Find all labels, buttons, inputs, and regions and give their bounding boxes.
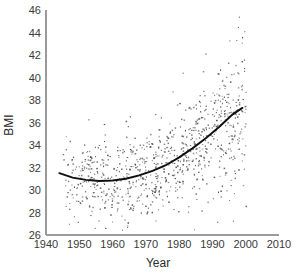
data-point (89, 205, 90, 207)
data-point (98, 196, 99, 198)
data-point (183, 183, 184, 184)
data-point (213, 198, 214, 200)
data-point (153, 195, 154, 197)
data-point (238, 169, 240, 171)
data-point (113, 189, 114, 190)
data-point (105, 164, 107, 165)
data-point (133, 184, 134, 185)
data-point (244, 106, 246, 108)
data-point (140, 158, 141, 160)
data-point (177, 197, 179, 199)
data-point (187, 149, 188, 151)
data-point (80, 183, 82, 185)
data-point (188, 212, 189, 214)
data-point (241, 86, 243, 87)
trend-line (59, 108, 242, 181)
data-point (146, 157, 148, 158)
data-point (199, 133, 201, 134)
data-point (202, 117, 204, 118)
data-point (200, 164, 201, 166)
data-point (138, 197, 140, 198)
data-point (131, 187, 133, 188)
data-point (121, 216, 122, 217)
y-tick-label: 28 (29, 207, 41, 219)
data-point (137, 161, 139, 162)
data-point (233, 221, 234, 222)
data-point (199, 118, 200, 120)
data-point (79, 166, 81, 167)
data-point (139, 169, 141, 171)
data-point (237, 139, 238, 140)
data-point (109, 156, 111, 157)
data-point (94, 196, 96, 197)
data-point (165, 152, 166, 153)
data-point (152, 201, 154, 202)
data-point (186, 160, 187, 161)
data-point (235, 173, 236, 174)
data-point (233, 126, 235, 128)
data-point (241, 129, 242, 130)
data-point (190, 128, 191, 129)
data-point (235, 117, 236, 119)
data-point (218, 100, 219, 101)
data-point (227, 114, 228, 115)
data-point (126, 160, 127, 161)
x-tick-label: 2000 (233, 238, 257, 250)
data-point (239, 102, 240, 104)
data-point (237, 72, 238, 73)
data-point (130, 116, 131, 118)
data-point (76, 167, 77, 168)
data-point (172, 130, 174, 132)
data-point (100, 208, 101, 210)
data-point (184, 120, 186, 121)
data-point (199, 151, 200, 152)
data-point (244, 60, 245, 61)
data-point (211, 101, 212, 102)
data-point (242, 61, 244, 63)
data-point (246, 92, 247, 93)
data-point (222, 96, 223, 97)
data-point (183, 151, 185, 152)
data-point (221, 120, 222, 121)
data-point (171, 147, 172, 148)
data-point (90, 169, 91, 170)
data-point (142, 161, 143, 162)
data-point (201, 155, 203, 157)
data-point (85, 159, 87, 160)
data-point (122, 229, 123, 231)
data-point (155, 156, 156, 157)
y-tick-label: 38 (29, 94, 41, 106)
data-point (97, 184, 98, 186)
data-point (167, 196, 168, 198)
data-point (129, 209, 130, 210)
data-point (94, 184, 95, 186)
data-point (174, 163, 176, 164)
data-point (240, 131, 242, 132)
data-point (140, 195, 141, 196)
data-point (82, 168, 84, 170)
data-point (76, 194, 78, 196)
data-point (81, 175, 83, 177)
data-point (190, 151, 192, 152)
data-point (97, 171, 98, 172)
data-point (88, 164, 90, 166)
data-point (165, 148, 166, 150)
data-point (154, 157, 156, 158)
data-point (97, 172, 98, 174)
data-point (237, 116, 239, 118)
data-point (189, 107, 191, 108)
data-point (185, 144, 187, 145)
data-point (205, 140, 206, 141)
data-point (242, 43, 243, 44)
data-point (156, 186, 158, 187)
data-point (135, 186, 137, 187)
data-point (111, 177, 112, 178)
y-tick-label: 42 (29, 49, 41, 61)
data-point (226, 77, 227, 79)
data-point (108, 159, 109, 161)
data-point (173, 170, 174, 172)
data-point (228, 94, 230, 96)
y-tick-label: 40 (29, 72, 41, 84)
data-point (171, 150, 172, 151)
data-point (222, 186, 223, 188)
